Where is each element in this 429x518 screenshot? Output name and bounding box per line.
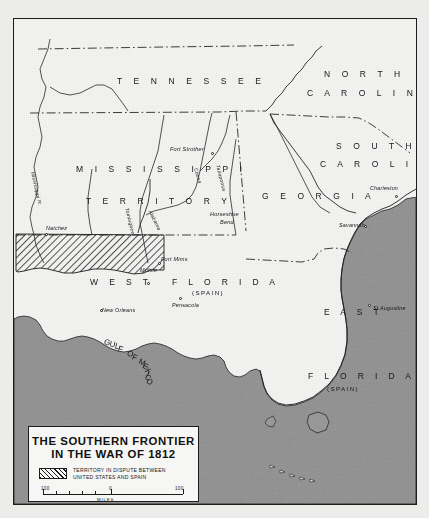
legend-text-block: TERRITORY IN DISPUTE BETWEEN UNITED STAT… (73, 467, 166, 480)
map-frame: GULFOFMEXICO THE SOUTHERN FRONTIER IN TH… (13, 18, 417, 505)
map-title-line2: IN THE WAR OF 1812 (29, 448, 198, 460)
legend-row: TERRITORY IN DISPUTE BETWEEN UNITED STAT… (39, 467, 198, 480)
legend-hatch-swatch (39, 468, 67, 479)
legend-line2: UNITED STATES AND SPAIN (73, 474, 166, 481)
map-title-line1: THE SOUTHERN FRONTIER (29, 435, 198, 447)
legend-text: TERRITORY IN DISPUTE BETWEEN UNITED STAT… (67, 467, 166, 480)
disputed-territory-hatch (16, 234, 164, 274)
legend-line1: TERRITORY IN DISPUTE BETWEEN (73, 467, 166, 474)
scale-units-label: MILES (97, 497, 114, 502)
map-figure: GULFOFMEXICO THE SOUTHERN FRONTIER IN TH… (0, 0, 429, 518)
scale-bar-line (43, 494, 183, 495)
title-cartouche: THE SOUTHERN FRONTIER IN THE WAR OF 1812… (28, 426, 199, 502)
